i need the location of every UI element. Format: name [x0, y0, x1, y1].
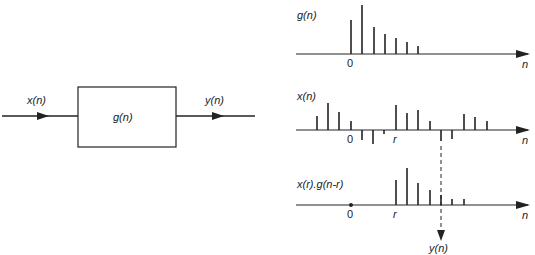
block-diagram: x(n) g(n) y(n): [2, 87, 255, 147]
output-down-arrow-icon: [437, 230, 445, 241]
g-label: g(n): [297, 9, 317, 21]
g-zero-label: 0: [347, 57, 353, 69]
system-label: g(n): [113, 111, 133, 123]
output-arrow-icon: [212, 112, 224, 120]
product-zero-label: 0: [347, 208, 353, 220]
input-label: x(n): [26, 94, 46, 106]
product-axis-label: n: [522, 209, 528, 221]
x-label: x(n): [296, 90, 316, 102]
input-arrow-icon: [37, 112, 49, 120]
g-axis-label: n: [522, 58, 528, 70]
product-r-label: r: [393, 208, 398, 220]
plot-x: [296, 103, 530, 144]
plot-g: [296, 5, 530, 58]
y-output-label: y(n): [428, 242, 448, 254]
x-r-label: r: [393, 133, 398, 145]
product-label: x(r).g(n-r): [296, 178, 344, 190]
x-axis-label: n: [522, 134, 528, 146]
convolution-diagram: x(n) g(n) y(n) g(n) 0 n x(: [0, 0, 535, 255]
diagram-svg: x(n) g(n) y(n) g(n) 0 n x(: [0, 0, 535, 255]
output-label: y(n): [204, 94, 224, 106]
x-zero-label: 0: [347, 133, 353, 145]
